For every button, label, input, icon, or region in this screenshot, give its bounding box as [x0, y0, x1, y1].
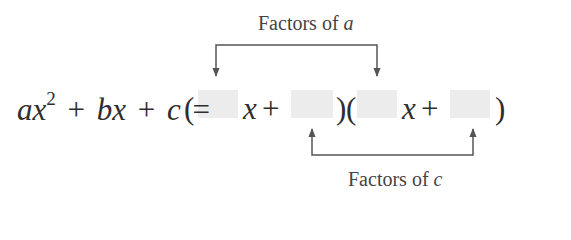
factors-of-c-variable: c — [434, 168, 443, 190]
var-x: x — [112, 92, 126, 127]
coef-a: a — [17, 92, 33, 127]
close-paren-2: ) — [495, 93, 505, 124]
factors-of-c-label: Factors of c — [348, 168, 442, 191]
constant-c: c — [167, 92, 181, 127]
plus-sign-factor-2: + — [421, 93, 438, 124]
plus-sign-factor-1: + — [262, 93, 279, 124]
blank-box-c1 — [291, 90, 333, 118]
factors-of-c-prefix: Factors of — [348, 168, 434, 190]
equals-sign: = — [193, 92, 210, 127]
close-paren-1: ) — [336, 93, 346, 124]
bottom-bracket-arrow — [312, 129, 473, 155]
plus-sign: + — [138, 92, 155, 127]
plus-sign: + — [68, 92, 85, 127]
open-paren-2: ( — [346, 93, 356, 124]
blank-box-c2 — [450, 90, 490, 118]
exponent-2: 2 — [46, 88, 56, 109]
open-paren-1: ( — [184, 93, 194, 124]
var-x: x — [33, 92, 47, 127]
coef-b: b — [97, 92, 113, 127]
var-x-factor-1: x — [243, 93, 257, 124]
top-bracket-arrow — [216, 45, 377, 76]
blank-box-a2 — [357, 90, 397, 118]
var-x-factor-2: x — [402, 93, 416, 124]
equation-lhs: ax2 + bx + c = — [17, 93, 210, 125]
